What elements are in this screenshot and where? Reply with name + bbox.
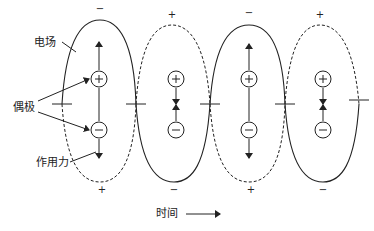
dipole-1	[91, 42, 107, 158]
bottom-sign-4: −	[319, 185, 327, 195]
time-label: 时间	[156, 208, 178, 219]
top-sign-1: −	[96, 4, 104, 14]
dipole-label: 偶极	[13, 102, 35, 113]
top-sign-2: +	[168, 10, 176, 20]
top-sign-3: −	[245, 8, 253, 18]
bottom-sign-3: +	[247, 185, 255, 195]
force-label: 作用力	[36, 157, 69, 168]
bottom-sign-2: −	[170, 185, 178, 195]
electric-field-label: 电场	[34, 37, 56, 48]
top-sign-4: +	[316, 10, 324, 20]
field-leader	[62, 42, 76, 52]
charge-glyphs	[95, 75, 327, 130]
force-leader	[70, 152, 96, 162]
annotation-leaders	[38, 42, 96, 162]
dipole-leader-minus	[38, 112, 89, 130]
dipole-3	[241, 44, 257, 158]
bottom-sign-1: +	[98, 185, 106, 195]
dipole-field-diagram	[0, 0, 374, 231]
electric-field-curve-solid	[62, 20, 359, 182]
